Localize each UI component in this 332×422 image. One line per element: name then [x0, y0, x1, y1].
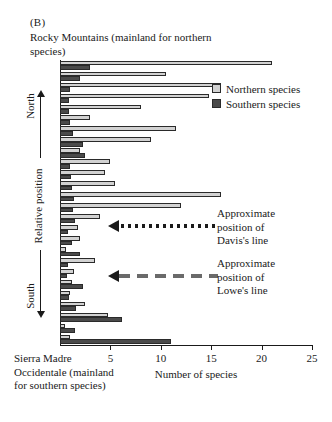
bar-southern-site-5 [60, 109, 69, 114]
bar-southern-site-2 [60, 76, 80, 81]
north-arrow-icon [40, 96, 41, 158]
bar-southern-site-1 [60, 65, 90, 70]
bar-southern-site-23 [60, 306, 76, 311]
lowe-line-annotation: Approximate position of Lowe's line [217, 257, 275, 298]
bar-southern-site-20 [60, 274, 67, 279]
bar-southern-site-8 [60, 142, 83, 147]
x-tick-25 [312, 345, 313, 350]
bar-northern-site-3 [60, 83, 221, 88]
legend: Northern species Southern species [212, 81, 300, 111]
bar-southern-site-21 [60, 284, 83, 289]
south-arrow-icon [40, 250, 41, 312]
x-tick-20 [262, 345, 263, 350]
bar-southern-site-13 [60, 197, 74, 202]
bar-southern-site-24 [60, 317, 122, 322]
direction-label-south: South [24, 261, 36, 331]
x-tick-label-5: 5 [98, 352, 122, 364]
x-tick-15 [211, 345, 212, 350]
bar-northern-site-7 [60, 126, 176, 131]
bar-southern-site-17 [60, 241, 72, 246]
panel-letter: (B) [30, 16, 45, 28]
y-axis-title: Relative position [32, 146, 44, 266]
bar-southern-site-15 [60, 219, 75, 224]
bar-southern-site-4 [60, 98, 69, 103]
x-tick-5 [110, 345, 111, 350]
bar-southern-site-10 [60, 164, 70, 169]
davis-line-annotation: Approximate position of Davis's line [217, 207, 275, 248]
bar-southern-site-22 [60, 295, 69, 300]
x-tick-label-15: 15 [199, 352, 223, 364]
bar-southern-site-9 [60, 153, 85, 158]
bar-northern-site-13 [60, 192, 221, 197]
x-axis-title: Number of species [116, 368, 276, 380]
legend-swatch-southern-icon [212, 99, 221, 108]
bar-northern-site-5 [60, 105, 141, 110]
bar-southern-site-19 [60, 263, 68, 268]
bar-northern-site-1 [60, 61, 272, 66]
x-axis-line [60, 345, 312, 346]
bar-southern-site-7 [60, 131, 73, 136]
legend-label-southern: Southern species [226, 98, 300, 110]
legend-item-northern: Northern species [212, 81, 300, 96]
direction-label-north: North [24, 71, 36, 141]
figure-panel-b: (B) Rocky Mountains (mainland for northe… [0, 0, 332, 422]
x-tick-10 [161, 345, 162, 350]
x-tick-label-20: 20 [250, 352, 274, 364]
bar-southern-site-14 [60, 208, 73, 213]
x-tick-label-10: 10 [149, 352, 173, 364]
bar-northern-site-14 [60, 203, 181, 208]
lowe-line-arrow-icon [108, 270, 218, 282]
davis-line-arrow-icon [108, 220, 218, 232]
bar-southern-site-26 [60, 339, 171, 344]
bar-northern-site-4 [60, 94, 209, 99]
top-caption: Rocky Mountains (mainland for northern s… [30, 31, 240, 58]
x-tick-label-25: 25 [300, 352, 324, 364]
bar-southern-site-25 [60, 328, 75, 333]
bar-southern-site-18 [60, 252, 80, 257]
bar-southern-site-16 [60, 230, 68, 235]
legend-item-southern: Southern species [212, 96, 300, 111]
legend-label-northern: Northern species [226, 83, 300, 95]
bar-southern-site-12 [60, 186, 72, 191]
legend-swatch-northern-icon [212, 84, 221, 93]
bar-southern-site-3 [60, 87, 70, 92]
bar-southern-site-6 [60, 120, 70, 125]
bar-southern-site-11 [60, 175, 71, 180]
